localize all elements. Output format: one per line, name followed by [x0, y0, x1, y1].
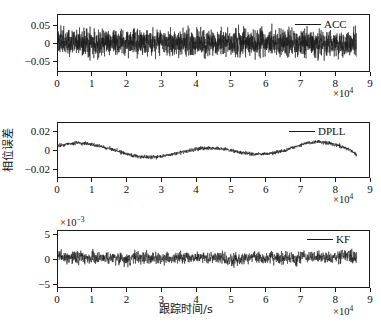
xticklabel-xaxis-dpll-3: 3: [159, 184, 165, 195]
subplot-acc: 0.05 0 −0.05 0123456789 ×104 ACC: [0, 0, 381, 105]
y-exponent-kf-mult: ×10: [60, 217, 76, 228]
xticklabel-xaxis-dpll-7: 7: [298, 184, 304, 195]
xticklabel-xaxis-kf-8: 8: [332, 294, 338, 305]
xticklabel-xaxis-dpll-6: 6: [263, 184, 269, 195]
xtick-xaxis-acc-7: [300, 72, 301, 76]
ytick-acc-2: [53, 61, 57, 62]
xtick-xaxis-acc-8: [335, 72, 336, 76]
xticklabel-xaxis-acc-7: 7: [298, 78, 304, 89]
legend-label-dpll: DPLL: [318, 126, 346, 137]
xtick-xaxis-acc-2: [126, 72, 127, 76]
xlabel-kf: 跟踪时间/s: [159, 304, 212, 316]
xticklabel-xaxis-kf-6: 6: [263, 294, 269, 305]
xtick-xaxis-dpll-9: [370, 178, 371, 182]
xtick-xaxis-acc-9: [370, 72, 371, 76]
xticklabel-xaxis-acc-9: 9: [367, 78, 373, 89]
xticklabel-xaxis-dpll-5: 5: [228, 184, 234, 195]
y-exponent-kf: ×10−3: [60, 217, 84, 228]
xticklabel-xaxis-acc-3: 3: [159, 78, 165, 89]
ytick-kf-2: [53, 284, 57, 285]
xtick-xaxis-kf-5: [230, 288, 231, 292]
yticklabel-dpll-2: −0.02: [14, 164, 50, 175]
xtick-xaxis-dpll-6: [265, 178, 266, 182]
legend-label-kf: KF: [336, 234, 350, 245]
ytick-acc-0: [53, 25, 57, 26]
xtick-xaxis-dpll-1: [91, 178, 92, 182]
xticklabel-xaxis-acc-1: 1: [89, 78, 95, 89]
subplot-kf: ×10−3 5 0 −5 0123456789 跟踪时间/s ×104 KF: [0, 216, 381, 327]
xtick-xaxis-kf-8: [335, 288, 336, 292]
xticklabel-xaxis-kf-9: 9: [367, 294, 373, 305]
xticklabel-xaxis-dpll-1: 1: [89, 184, 95, 195]
xtick-xaxis-kf-2: [126, 288, 127, 292]
xticklabel-xaxis-dpll-4: 4: [193, 184, 199, 195]
yticklabel-dpll-1: 0: [14, 145, 50, 156]
x-exponent-acc-pow: 4: [349, 86, 353, 95]
subplot-dpll: 0.02 0 −0.02 相位误差 0123456789 ×104 DPLL: [0, 108, 381, 213]
xticklabel-xaxis-acc-5: 5: [228, 78, 234, 89]
xtick-xaxis-kf-1: [91, 288, 92, 292]
legend-acc: ACC: [295, 19, 347, 30]
ytick-kf-0: [53, 234, 57, 235]
xtick-xaxis-kf-3: [161, 288, 162, 292]
xticklabel-xaxis-acc-6: 6: [263, 78, 269, 89]
xticklabel-xaxis-acc-0: 0: [54, 78, 60, 89]
yticklabel-acc-2: −0.05: [14, 56, 50, 67]
xtick-xaxis-kf-9: [370, 288, 371, 292]
xticklabel-xaxis-dpll-2: 2: [124, 184, 130, 195]
yticklabel-kf-1: 0: [14, 254, 50, 265]
xticklabel-xaxis-kf-5: 5: [228, 294, 234, 305]
ytick-dpll-2: [53, 169, 57, 170]
xaxis-kf: 0123456789: [57, 288, 370, 318]
x-exponent-acc-mult: ×10: [333, 88, 349, 99]
xticklabel-xaxis-dpll-9: 9: [367, 184, 373, 195]
legend-line-icon-dpll: [289, 131, 315, 132]
x-exponent-dpll-mult: ×10: [333, 194, 349, 205]
xticklabel-xaxis-kf-2: 2: [124, 294, 130, 305]
xtick-xaxis-dpll-7: [300, 178, 301, 182]
xticklabel-xaxis-acc-4: 4: [193, 78, 199, 89]
legend-line-icon-kf: [307, 239, 333, 240]
xticklabel-xaxis-kf-0: 0: [54, 294, 60, 305]
legend-kf: KF: [307, 234, 350, 245]
xtick-xaxis-dpll-8: [335, 178, 336, 182]
xtick-xaxis-acc-5: [230, 72, 231, 76]
yticklabel-kf-2: −5: [14, 279, 50, 290]
yticklabel-acc-0: 0.05: [14, 20, 50, 31]
xaxis-dpll: 0123456789: [57, 178, 370, 208]
xtick-xaxis-kf-4: [196, 288, 197, 292]
xticklabel-xaxis-dpll-0: 0: [54, 184, 60, 195]
ytick-kf-1: [53, 259, 57, 260]
legend-label-acc: ACC: [324, 19, 347, 30]
xtick-xaxis-acc-3: [161, 72, 162, 76]
xtick-xaxis-kf-7: [300, 288, 301, 292]
ytick-dpll-1: [53, 150, 57, 151]
xticklabel-xaxis-kf-7: 7: [298, 294, 304, 305]
figure-phase-error-comparison: 0.05 0 −0.05 0123456789 ×104 ACC 0.02 0 …: [0, 0, 381, 327]
ytick-acc-1: [53, 43, 57, 44]
xtick-xaxis-dpll-5: [230, 178, 231, 182]
ytick-dpll-0: [53, 131, 57, 132]
yticklabel-kf-0: 5: [14, 229, 50, 240]
y-exponent-kf-pow: −3: [76, 215, 84, 224]
xtick-xaxis-dpll-3: [161, 178, 162, 182]
xticklabel-xaxis-kf-1: 1: [89, 294, 95, 305]
xtick-xaxis-dpll-0: [57, 178, 58, 182]
yticklabel-dpll-0: 0.02: [14, 126, 50, 137]
yticklabel-acc-1: 0: [14, 38, 50, 49]
xtick-xaxis-acc-4: [196, 72, 197, 76]
x-exponent-kf: ×104: [333, 306, 353, 317]
x-exponent-acc: ×104: [333, 88, 353, 99]
xtick-xaxis-dpll-4: [196, 178, 197, 182]
xtick-xaxis-acc-6: [265, 72, 266, 76]
xtick-xaxis-acc-0: [57, 72, 58, 76]
xtick-xaxis-acc-1: [91, 72, 92, 76]
xtick-xaxis-kf-6: [265, 288, 266, 292]
x-exponent-dpll-pow: 4: [349, 192, 353, 201]
x-exponent-kf-mult: ×10: [333, 306, 349, 317]
legend-dpll: DPLL: [289, 126, 346, 137]
ylabel-dpll: 相位误差: [3, 128, 15, 172]
x-exponent-dpll: ×104: [333, 194, 353, 205]
xaxis-acc: 0123456789: [57, 72, 370, 102]
x-exponent-kf-pow: 4: [349, 304, 353, 313]
